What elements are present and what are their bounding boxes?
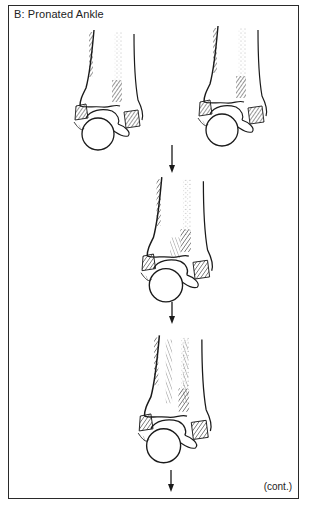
- ankle-drawing: [72, 28, 152, 153]
- continuation-label: (cont.): [264, 481, 292, 492]
- ankle-illustration-middle: [138, 175, 223, 305]
- ankle-drawing: [138, 175, 223, 305]
- ankle-illustration-bottom: [136, 328, 221, 468]
- ankle-illustration-top-left: [72, 28, 152, 153]
- arrow-down-icon: [167, 302, 177, 330]
- arrow-down-icon: [167, 145, 177, 179]
- ankle-illustration-top-right: [196, 24, 276, 149]
- ankle-drawing: [196, 24, 276, 149]
- ankle-drawing: [136, 328, 221, 468]
- figure-title: B: Pronated Ankle: [14, 8, 104, 20]
- arrow-down-icon: [166, 470, 176, 498]
